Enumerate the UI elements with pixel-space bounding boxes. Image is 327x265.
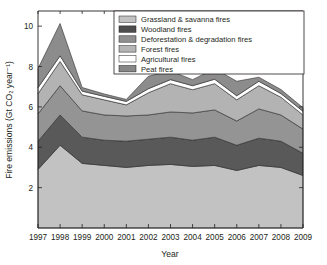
x-tick-label: 2000 bbox=[95, 233, 114, 242]
legend-label: Woodland fires bbox=[141, 25, 192, 34]
x-axis-title: Year bbox=[161, 249, 179, 259]
x-tick-label: 2003 bbox=[161, 233, 180, 242]
legend-swatch bbox=[119, 46, 136, 52]
x-tick-label: 2004 bbox=[183, 233, 202, 242]
x-tick-label: 2006 bbox=[228, 233, 247, 242]
legend-label: Deforestation & degradation fires bbox=[141, 35, 252, 44]
y-axis-title: Fire emissions (Gt CO₂ year⁻¹) bbox=[4, 61, 14, 179]
chart-canvas: 246810 199719981999200020012002200320042… bbox=[0, 0, 327, 265]
x-tick-label: 2007 bbox=[250, 233, 269, 242]
y-tick-label: 6 bbox=[28, 103, 33, 112]
x-tick-label: 2008 bbox=[272, 233, 291, 242]
legend-label: Grassland & savanna fires bbox=[141, 15, 230, 24]
legend-label: Forest fires bbox=[141, 45, 179, 54]
x-tick-label: 1999 bbox=[73, 233, 92, 242]
x-tick-label: 1997 bbox=[29, 233, 48, 242]
y-tick-label: 8 bbox=[28, 63, 33, 72]
legend-swatch bbox=[119, 56, 136, 62]
x-tick-label: 2001 bbox=[117, 233, 136, 242]
legend-swatch bbox=[119, 26, 136, 32]
x-tick-label: 2009 bbox=[294, 233, 313, 242]
legend-label: Peat fires bbox=[141, 65, 173, 74]
y-tick-label: 10 bbox=[24, 22, 34, 31]
y-tick-label: 2 bbox=[28, 184, 33, 193]
x-tick-label: 2002 bbox=[139, 233, 158, 242]
y-tick-label: 4 bbox=[28, 143, 33, 152]
legend-label: Agricultural fires bbox=[141, 55, 196, 64]
chart-legend: Grassland & savanna firesWoodland firesD… bbox=[114, 11, 304, 74]
x-tick-label: 1998 bbox=[51, 233, 70, 242]
legend-swatch bbox=[119, 16, 136, 22]
x-tick-label: 2005 bbox=[206, 233, 225, 242]
legend-swatch bbox=[119, 36, 136, 42]
figure-stacked-area-fire-emissions: 246810 199719981999200020012002200320042… bbox=[0, 0, 327, 265]
legend-swatch bbox=[119, 66, 136, 72]
